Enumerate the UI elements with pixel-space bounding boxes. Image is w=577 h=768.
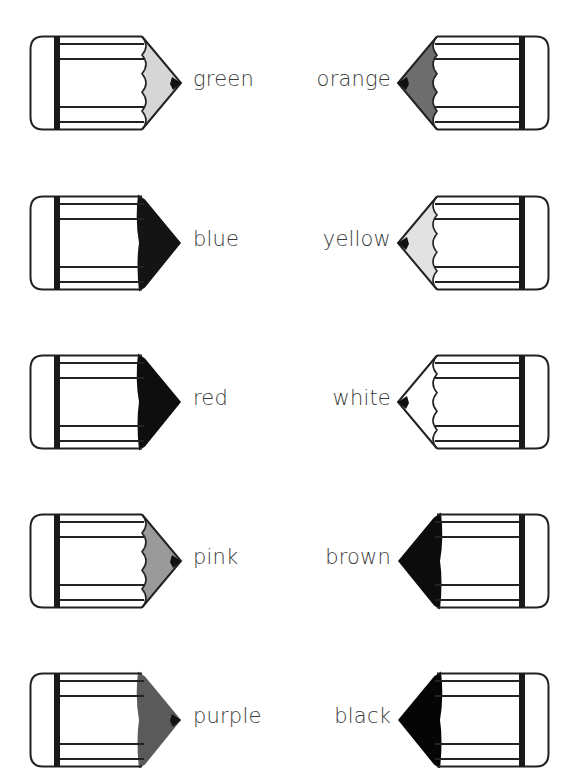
pencil-icon-white bbox=[395, 354, 550, 450]
pencil-icon-green bbox=[29, 35, 184, 131]
pencil-icon-pink bbox=[29, 513, 184, 609]
color-word-white: white bbox=[333, 388, 391, 409]
color-word-red: red bbox=[193, 388, 228, 409]
color-word-orange: orange bbox=[317, 69, 391, 90]
color-word-yellow: yellow bbox=[323, 229, 391, 250]
pencil-icon-black bbox=[395, 672, 550, 768]
color-word-black: black bbox=[334, 706, 391, 727]
pencil-icon-yellow bbox=[395, 195, 550, 291]
pencil-icon-orange bbox=[395, 35, 550, 131]
pencil-icon-red bbox=[29, 354, 184, 450]
color-word-blue: blue bbox=[193, 229, 239, 250]
color-word-purple: purple bbox=[193, 706, 262, 727]
color-word-green: green bbox=[193, 69, 254, 90]
color-word-brown: brown bbox=[325, 547, 391, 568]
pencil-icon-purple bbox=[29, 672, 184, 768]
color-word-pink: pink bbox=[193, 547, 238, 568]
pencil-icon-brown bbox=[395, 513, 550, 609]
pencil-icon-blue bbox=[29, 195, 184, 291]
